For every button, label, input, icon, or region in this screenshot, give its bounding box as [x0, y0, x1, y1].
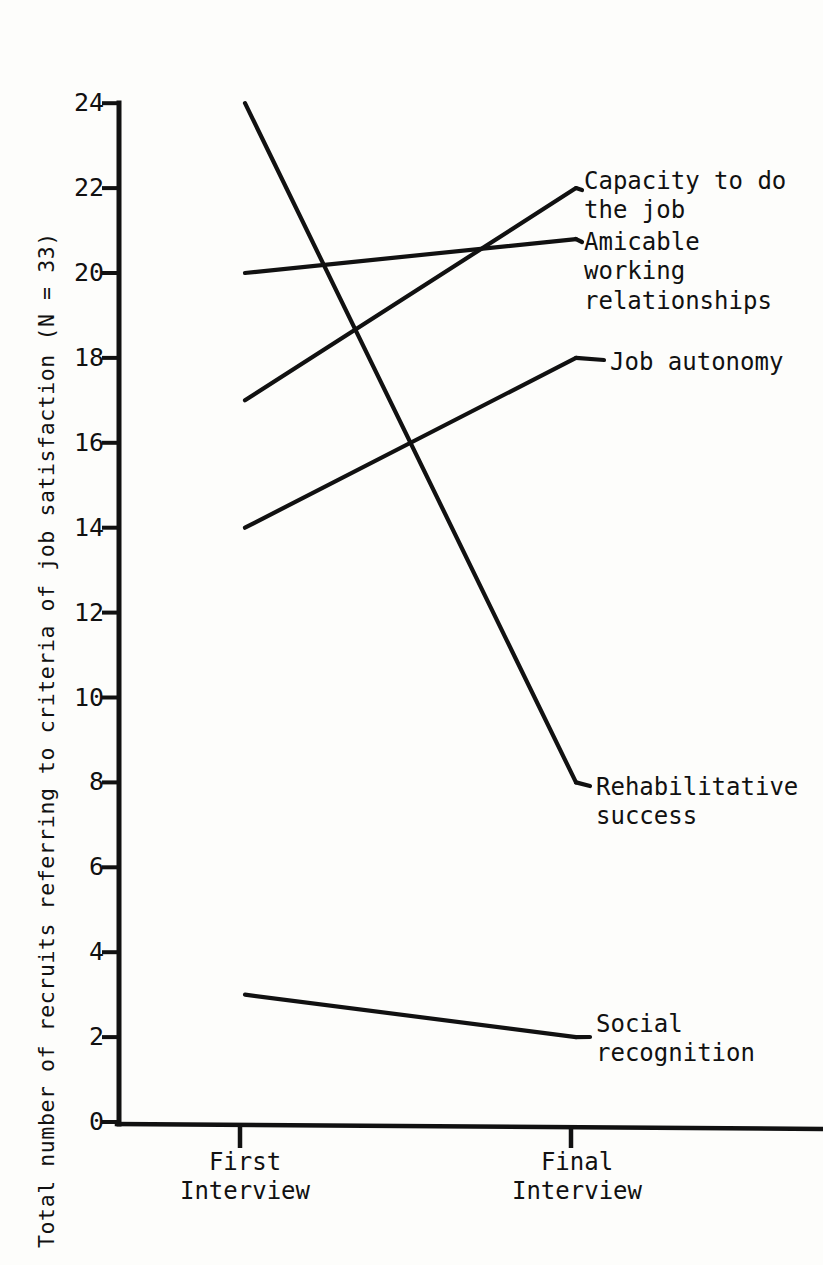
label-leader-line — [576, 239, 582, 242]
series-line-capacity-to-do-the-job — [245, 188, 576, 400]
label-leader-line — [576, 358, 604, 360]
series-line-amicable-working-relationships — [245, 239, 576, 273]
data-series-lines — [245, 103, 576, 1037]
y-axis-ticks — [102, 103, 119, 1122]
series-label-rehabilitative-success: Rehabilitative success — [596, 773, 798, 832]
series-label-capacity-to-do-the-job: Capacity to do the job — [584, 167, 786, 226]
x-axis-ticks — [240, 1126, 571, 1148]
label-leader-line — [576, 188, 582, 190]
label-leader-line — [576, 782, 590, 786]
x-tick-label-final-interview: Final Interview — [482, 1148, 672, 1207]
x-axis-line — [117, 1124, 823, 1129]
series-label-job-autonomy: Job autonomy — [610, 348, 783, 377]
series-line-job-autonomy — [245, 358, 576, 528]
series-line-social-recognition — [245, 995, 576, 1037]
series-label-amicable-working-relationships: Amicable working relationships — [584, 228, 772, 316]
chart-page: Total number of recruits referring to cr… — [0, 0, 823, 1265]
x-tick-label-first-interview: First Interview — [150, 1148, 340, 1207]
series-label-social-recognition: Social recognition — [596, 1010, 755, 1069]
